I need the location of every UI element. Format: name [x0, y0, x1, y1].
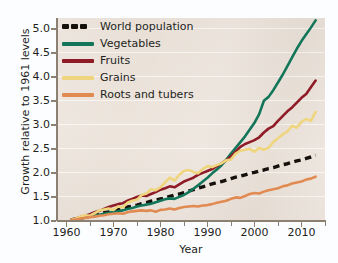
- y-tick-mark: [51, 100, 56, 102]
- legend-label: Fruits: [100, 55, 130, 67]
- series-line: [71, 177, 315, 220]
- y-tick-mark: [51, 76, 56, 78]
- x-axis-title: Year: [57, 243, 325, 256]
- y-tick-mark: [51, 28, 56, 30]
- x-minor-tick-mark: [137, 222, 138, 226]
- legend-item[interactable]: Grains: [62, 71, 194, 85]
- y-axis-title: Growth relative to 1961 levels: [19, 17, 32, 207]
- x-tick-label: 1980: [140, 227, 180, 239]
- y-tick-mark: [51, 124, 56, 126]
- legend-swatch-icon: [62, 20, 94, 34]
- legend-item[interactable]: Fruits: [62, 54, 194, 68]
- y-tick-mark: [51, 148, 56, 150]
- x-axis-line: [57, 220, 326, 222]
- legend-item[interactable]: World population: [62, 20, 194, 34]
- x-minor-tick-mark: [278, 222, 279, 226]
- x-minor-tick-mark: [184, 222, 185, 226]
- legend-swatch-icon: [62, 88, 94, 102]
- y-tick-label: 1.0: [22, 215, 50, 226]
- x-minor-tick-mark: [325, 222, 326, 226]
- x-minor-tick-mark: [90, 222, 91, 226]
- legend-item[interactable]: Roots and tubers: [62, 88, 194, 102]
- y-tick-mark: [51, 220, 56, 222]
- legend-swatch-icon: [62, 54, 94, 68]
- x-tick-label: 1960: [46, 227, 86, 239]
- y-tick-mark: [51, 172, 56, 174]
- legend-label: Roots and tubers: [100, 89, 194, 101]
- x-tick-label: 1990: [187, 227, 227, 239]
- x-tick-label: 2010: [281, 227, 321, 239]
- y-tick-mark: [51, 52, 56, 54]
- x-tick-label: 1970: [93, 227, 133, 239]
- legend-swatch-icon: [62, 37, 94, 51]
- legend-item[interactable]: Vegetables: [62, 37, 194, 51]
- legend-label: Grains: [100, 72, 136, 84]
- legend-label: World population: [100, 21, 194, 33]
- x-minor-tick-mark: [231, 222, 232, 226]
- chart-legend: World populationVegetablesFruitsGrainsRo…: [62, 20, 194, 102]
- y-axis-line: [56, 18, 58, 221]
- legend-swatch-icon: [62, 71, 94, 85]
- chart-figure: 1.01.52.02.53.03.54.04.55.0 196019701980…: [0, 0, 338, 263]
- legend-label: Vegetables: [100, 38, 161, 50]
- x-tick-label: 2000: [234, 227, 274, 239]
- y-tick-mark: [51, 196, 56, 198]
